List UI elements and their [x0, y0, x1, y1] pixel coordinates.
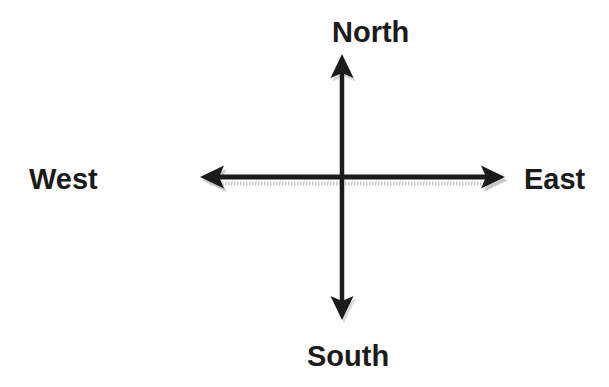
horizontal-arrow-shadow — [203, 169, 508, 192]
compass-diagram: North South West East — [0, 0, 609, 387]
label-north: North — [332, 18, 409, 47]
label-south: South — [307, 342, 389, 371]
north-south-arrow — [331, 54, 354, 320]
label-east: East — [524, 165, 585, 194]
label-west: West — [29, 165, 98, 194]
